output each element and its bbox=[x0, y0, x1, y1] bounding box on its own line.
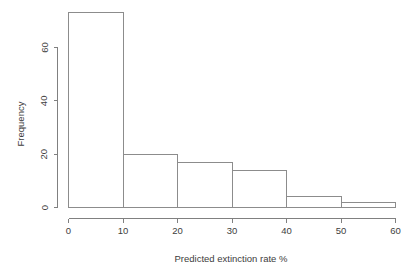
x-tick-label: 60 bbox=[390, 225, 401, 236]
y-tick-label: 40 bbox=[39, 96, 50, 107]
histogram-bar[interactable] bbox=[178, 162, 233, 207]
x-axis: 0102030405060 bbox=[66, 219, 401, 237]
x-tick-label: 50 bbox=[336, 225, 347, 236]
histogram-figure: 0204060 0102030405060 Predicted extincti… bbox=[0, 0, 410, 272]
histogram-bar[interactable] bbox=[232, 170, 287, 207]
y-tick-label: 20 bbox=[39, 149, 50, 160]
histogram-bar[interactable] bbox=[123, 154, 178, 207]
x-tick-label: 40 bbox=[281, 225, 292, 236]
x-tick-label: 20 bbox=[172, 225, 183, 236]
y-tick-label: 60 bbox=[39, 42, 50, 53]
histogram-bar[interactable] bbox=[287, 197, 342, 208]
histogram-bar[interactable] bbox=[69, 13, 124, 208]
bars-group bbox=[69, 13, 396, 208]
y-axis-label: Frequency bbox=[15, 101, 26, 146]
x-axis-label: Predicted extinction rate % bbox=[174, 253, 288, 264]
y-axis-ticks: 0204060 bbox=[39, 42, 58, 210]
x-tick-label: 0 bbox=[66, 225, 71, 236]
x-tick-label: 10 bbox=[118, 225, 129, 236]
histogram-plot: 0204060 0102030405060 Predicted extincti… bbox=[0, 0, 410, 272]
x-tick-label: 30 bbox=[227, 225, 238, 236]
y-tick-label: 0 bbox=[39, 205, 50, 210]
x-axis-ticks: 0102030405060 bbox=[66, 219, 401, 237]
y-axis: 0204060 bbox=[39, 42, 58, 210]
histogram-bar[interactable] bbox=[341, 202, 396, 207]
